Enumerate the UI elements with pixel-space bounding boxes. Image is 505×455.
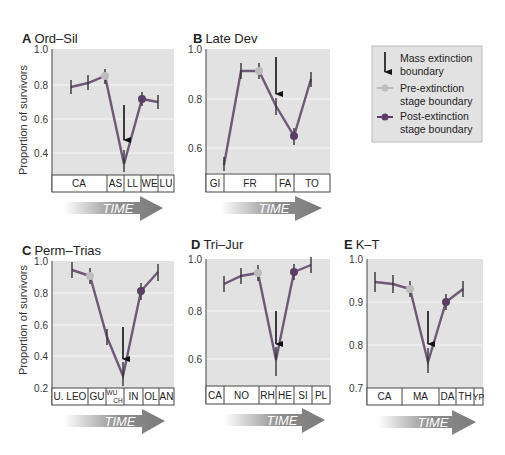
stage-label: AN bbox=[160, 391, 174, 402]
panel-d: DTri–Jur 1.0 0.8 0.6 CA NO RH HE SI bbox=[188, 237, 330, 433]
stage-label: TO bbox=[305, 178, 319, 189]
svg-text:TIME: TIME bbox=[266, 413, 297, 428]
stage-label: CA bbox=[378, 391, 392, 402]
y-ticks: 1.0 0.8 0.6 bbox=[188, 44, 202, 154]
svg-text:0.6: 0.6 bbox=[188, 143, 202, 154]
svg-text:1.0: 1.0 bbox=[34, 44, 48, 55]
svg-text:Mass extinction: Mass extinction bbox=[400, 52, 473, 64]
panel-a: AOrd–Sil 1.0 0.8 0.6 0.4 Proportion of s… bbox=[17, 31, 174, 221]
y-axis-label: Proportion of survivors bbox=[17, 264, 29, 375]
stage-bar: CA AS LL WE LU bbox=[52, 175, 174, 192]
svg-text:TIME: TIME bbox=[102, 201, 133, 216]
stage-label: WE bbox=[141, 178, 157, 189]
panel-title: Late Dev bbox=[205, 31, 258, 46]
stage-label: U. LEO bbox=[54, 391, 87, 402]
svg-text:stage boundary: stage boundary bbox=[400, 95, 473, 107]
svg-text:TIME: TIME bbox=[104, 414, 135, 429]
stage-label: CA bbox=[72, 178, 86, 189]
post-extinction-marker bbox=[137, 287, 145, 295]
plot-area bbox=[367, 259, 483, 388]
legend: Mass extinction boundary Pre-extinction … bbox=[372, 46, 482, 142]
post-extinction-marker bbox=[442, 298, 450, 306]
svg-text:0.8: 0.8 bbox=[188, 306, 202, 317]
pre-extinction-marker bbox=[86, 272, 94, 280]
stage-label: WU bbox=[107, 389, 118, 396]
post-extinction-marker bbox=[290, 268, 298, 276]
stage-label: TH bbox=[458, 391, 471, 402]
pre-extinction-marker bbox=[406, 285, 414, 293]
stage-label: FA bbox=[279, 178, 292, 189]
svg-text:0.6: 0.6 bbox=[34, 320, 48, 331]
y-ticks: 1.0 0.8 0.6 0.4 bbox=[34, 44, 48, 159]
svg-text:0.6: 0.6 bbox=[34, 114, 48, 125]
svg-text:0.9: 0.9 bbox=[349, 297, 363, 308]
svg-text:1.0: 1.0 bbox=[349, 254, 363, 265]
stage-label: CA bbox=[208, 390, 222, 401]
y-axis-label: Proportion of survivors bbox=[17, 64, 29, 175]
svg-text:0.8: 0.8 bbox=[188, 94, 202, 105]
time-arrow: TIME bbox=[64, 196, 163, 221]
stage-bar: CA MA DA TH YP bbox=[367, 388, 484, 405]
stage-label: DA bbox=[441, 391, 455, 402]
stage-label: LL bbox=[127, 178, 139, 189]
svg-text:1.0: 1.0 bbox=[34, 256, 48, 267]
svg-text:1.0: 1.0 bbox=[188, 44, 202, 55]
plot-area bbox=[206, 49, 330, 173]
stage-label: OL bbox=[144, 391, 158, 402]
svg-text:TIME: TIME bbox=[417, 415, 448, 430]
stage-label: CH bbox=[113, 397, 123, 404]
stage-label: SI bbox=[298, 390, 307, 401]
panel-letter: A bbox=[22, 31, 32, 46]
pre-extinction-marker bbox=[254, 269, 262, 277]
stage-label: FR bbox=[243, 178, 256, 189]
svg-text:0.4: 0.4 bbox=[34, 351, 48, 362]
svg-text:boundary: boundary bbox=[400, 65, 445, 77]
svg-text:0.8: 0.8 bbox=[34, 80, 48, 91]
panel-c: CPerm–Trias 1.0 0.8 0.6 0.4 0.2 Proporti… bbox=[17, 243, 174, 434]
stage-bar: CA NO RH HE SI PL bbox=[206, 386, 330, 404]
time-arrow: TIME bbox=[64, 409, 165, 434]
panel-e: EK–T 1.0 0.9 0.8 0.7 CA MA DA TH bbox=[344, 237, 484, 435]
panel-letter: E bbox=[344, 237, 353, 252]
stage-bar: GI FR FA TO bbox=[206, 174, 330, 192]
post-extinction-marker bbox=[290, 132, 298, 140]
stage-label: GU bbox=[90, 391, 105, 402]
pre-extinction-marker bbox=[101, 72, 109, 80]
svg-text:DTri–Jur: DTri–Jur bbox=[191, 237, 244, 252]
panel-b: BLate Dev 1.0 0.8 0.6 GI FR FA TO bbox=[188, 31, 330, 221]
stage-label: IN bbox=[129, 391, 139, 402]
svg-text:Pre-extinction: Pre-extinction bbox=[400, 82, 464, 94]
stage-label: NO bbox=[234, 390, 249, 401]
time-arrow: TIME bbox=[378, 410, 476, 435]
svg-text:0.8: 0.8 bbox=[34, 288, 48, 299]
time-arrow: TIME bbox=[224, 408, 325, 433]
y-ticks: 1.0 0.8 0.6 0.4 0.2 bbox=[34, 256, 48, 394]
panel-letter: D bbox=[191, 237, 200, 252]
svg-text:TIME: TIME bbox=[258, 201, 289, 216]
y-ticks: 1.0 0.8 0.6 bbox=[188, 254, 202, 365]
pre-extinction-marker bbox=[255, 67, 263, 75]
stage-label: HE bbox=[278, 390, 292, 401]
panel-letter: C bbox=[22, 243, 32, 258]
svg-text:0.7: 0.7 bbox=[349, 383, 363, 394]
svg-text:BLate Dev: BLate Dev bbox=[193, 31, 258, 46]
stage-label: RH bbox=[260, 390, 274, 401]
stage-bar: U. LEO GU WU CH IN OL AN bbox=[52, 388, 174, 405]
svg-text:stage boundary: stage boundary bbox=[400, 123, 473, 135]
stage-label: MA bbox=[413, 391, 428, 402]
svg-text:0.8: 0.8 bbox=[349, 340, 363, 351]
stage-label: AS bbox=[109, 178, 123, 189]
stage-label: LU bbox=[160, 178, 173, 189]
y-ticks: 1.0 0.9 0.8 0.7 bbox=[349, 254, 363, 394]
svg-text:0.6: 0.6 bbox=[188, 354, 202, 365]
post-extinction-marker bbox=[138, 95, 146, 103]
svg-text:EK–T: EK–T bbox=[344, 237, 380, 252]
time-arrow: TIME bbox=[221, 196, 322, 221]
stage-label: YP bbox=[473, 392, 485, 402]
svg-text:1.0: 1.0 bbox=[188, 254, 202, 265]
panel-title: Tri–Jur bbox=[203, 237, 244, 252]
svg-text:AOrd–Sil: AOrd–Sil bbox=[22, 31, 78, 46]
svg-text:0.2: 0.2 bbox=[34, 383, 48, 394]
panel-title: K–T bbox=[356, 237, 380, 252]
extinction-survivorship-figure: AOrd–Sil 1.0 0.8 0.6 0.4 Proportion of s… bbox=[0, 0, 505, 455]
